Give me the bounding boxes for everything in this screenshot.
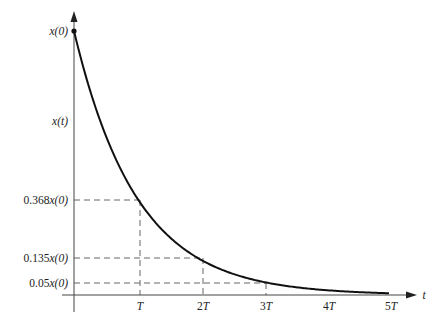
y-axis-arrow-icon [71, 11, 78, 22]
x-tick-5T: 5T [385, 300, 399, 312]
decay-chart: x(0) x(t) 0.368x(0) 0.135x(0) 0.05x(0) T… [0, 0, 443, 323]
x-axis-title: t [422, 289, 426, 301]
decay-curve [74, 31, 389, 293]
y-label-x0: x(0) [48, 25, 68, 38]
axes [62, 16, 412, 312]
y-label-135: 0.135x(0) [24, 252, 69, 265]
x-tick-3T: 3T [260, 300, 274, 312]
y-axis-title: x(t) [51, 115, 68, 128]
x-tick-4T: 4T [323, 300, 337, 312]
y-label-05: 0.05x(0) [29, 277, 68, 290]
x-tick-T: T [137, 300, 145, 312]
x-axis-arrow-icon [406, 292, 417, 299]
y-label-368: 0.368x(0) [24, 194, 69, 207]
reference-lines [74, 200, 266, 295]
x-tick-2T: 2T [197, 300, 211, 312]
initial-point [71, 28, 76, 33]
